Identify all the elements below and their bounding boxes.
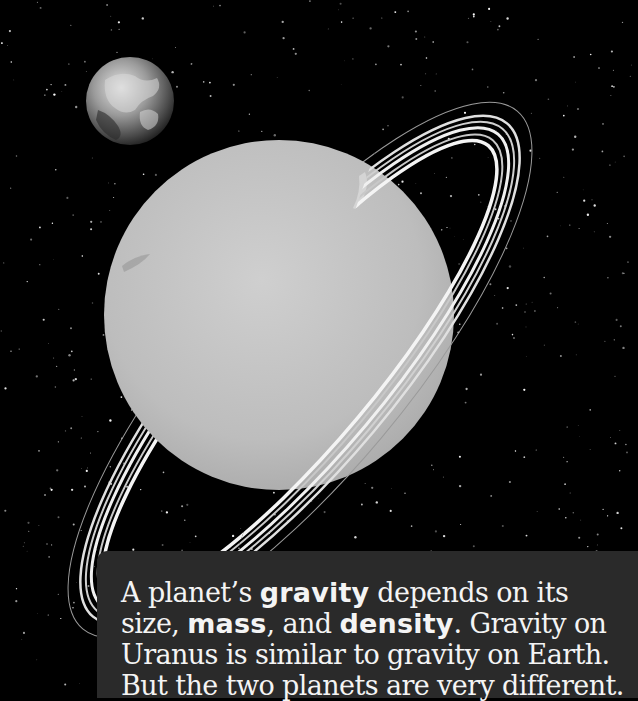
earth-icon <box>86 57 174 145</box>
caption-text: A planet’s gravity depends on its size, … <box>121 577 628 701</box>
keyword-gravity: gravity <box>260 577 370 608</box>
caption-segment: , and <box>267 608 340 639</box>
caption-box: A planet’s gravity depends on its size, … <box>97 551 638 698</box>
keyword-mass: mass <box>187 608 266 639</box>
keyword-density: density <box>339 608 453 639</box>
uranus-planet <box>104 140 454 490</box>
caption-segment: A planet’s <box>121 577 260 608</box>
